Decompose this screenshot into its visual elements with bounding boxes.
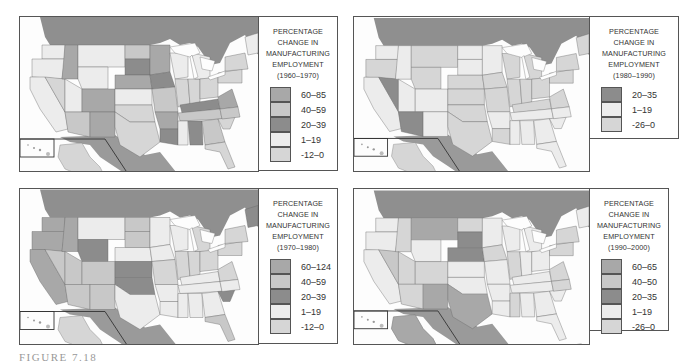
us-choropleth-map: [354, 17, 590, 172]
legend-swatch: [601, 274, 622, 289]
map-1960-1970: [19, 16, 259, 172]
legend-swatch: [601, 117, 622, 132]
legend-row: 1–19: [259, 132, 337, 147]
legend-row: 60–124: [259, 259, 337, 274]
legend-row: -26–0: [590, 117, 678, 132]
legend-row: 60–85: [259, 87, 337, 102]
legend-row: 40–50: [590, 274, 668, 289]
legend-swatch: [601, 87, 622, 102]
figure-caption: FIGURE 7.18: [19, 351, 97, 363]
legend-swatch: [601, 259, 622, 274]
legend-swatch: [270, 274, 291, 289]
legend-swatch: [601, 304, 622, 319]
legend-swatch: [270, 102, 291, 117]
legend-row: 40–59: [259, 102, 337, 117]
legend-row: 1–19: [590, 304, 668, 319]
legend-swatch: [270, 147, 291, 162]
legend-1970-1980: PERCENTAGE CHANGE IN MANUFACTURING EMPLO…: [258, 188, 338, 344]
legend-title: PERCENTAGE CHANGE IN MANUFACTURING EMPLO…: [590, 198, 668, 253]
us-choropleth-map: [20, 17, 259, 172]
legend-row: 1–19: [259, 304, 337, 319]
legend-row: 20–39: [259, 117, 337, 132]
legend-swatch: [270, 132, 291, 147]
legend-swatch: [601, 319, 622, 334]
legend-row: -12–0: [259, 319, 337, 334]
legend-row: 20–39: [259, 289, 337, 304]
legend-swatch: [601, 289, 622, 304]
legend-1990-2000: PERCENTAGE CHANGE IN MANUFACTURING EMPLO…: [589, 188, 669, 331]
legend-title: PERCENTAGE CHANGE IN MANUFACTURING EMPLO…: [259, 198, 337, 253]
legend-1980-1990: PERCENTAGE CHANGE IN MANUFACTURING EMPLO…: [589, 16, 679, 139]
map-1970-1980: [19, 188, 259, 345]
us-choropleth-map: [354, 189, 590, 345]
legend-row: 20–35: [590, 289, 668, 304]
legend-1960-1970: PERCENTAGE CHANGE IN MANUFACTURING EMPLO…: [258, 16, 338, 171]
legend-row: -26–0: [590, 319, 668, 334]
legend-swatch: [270, 87, 291, 102]
legend-row: 20–35: [590, 87, 678, 102]
legend-title: PERCENTAGE CHANGE IN MANUFACTURING EMPLO…: [259, 26, 337, 81]
legend-row: 60–65: [590, 259, 668, 274]
legend-swatch: [270, 289, 291, 304]
map-1990-2000: [353, 188, 590, 345]
legend-swatch: [270, 304, 291, 319]
legend-title: PERCENTAGE CHANGE IN MANUFACTURING EMPLO…: [590, 26, 678, 81]
legend-row: 40–59: [259, 274, 337, 289]
legend-row: 1–19: [590, 102, 678, 117]
legend-swatch: [270, 319, 291, 334]
legend-swatch: [270, 259, 291, 274]
legend-swatch: [270, 117, 291, 132]
map-1980-1990: [353, 16, 590, 172]
us-choropleth-map: [20, 189, 259, 345]
legend-swatch: [601, 102, 622, 117]
legend-row: -12–0: [259, 147, 337, 162]
